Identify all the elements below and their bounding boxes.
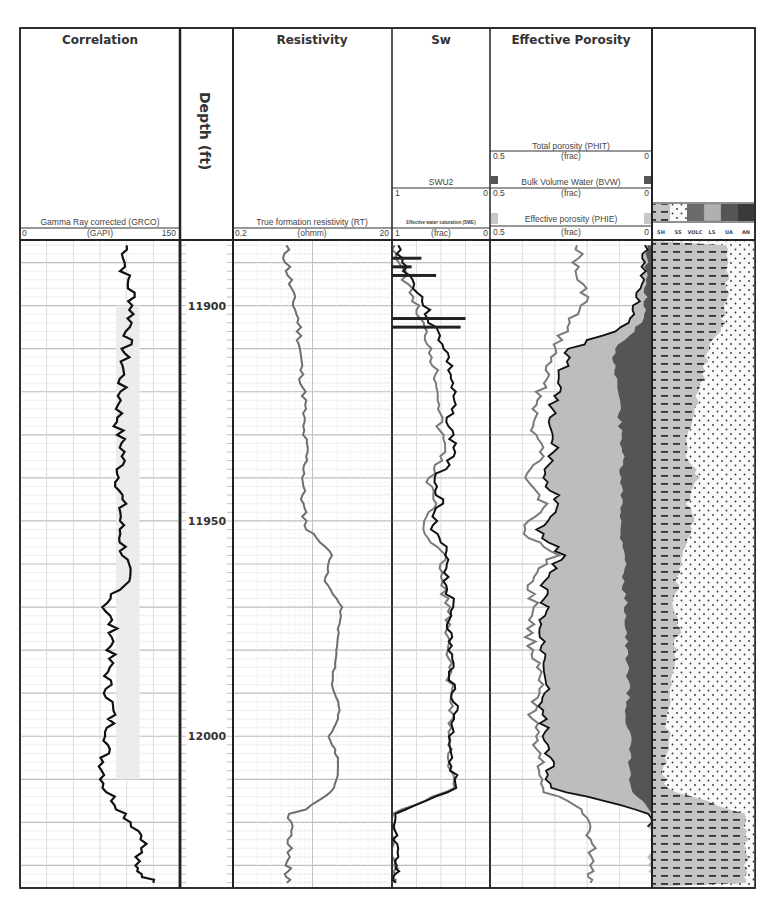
lithology-legend: SH SS VOLC LS UA AN (652, 203, 755, 235)
scale-unit: (frac) (561, 188, 581, 198)
curve-name: Effective porosity (PHIE) (525, 214, 618, 224)
scale-min: 0 (22, 228, 27, 238)
curve-header-swu2: SWU2 1 0 (392, 177, 490, 198)
curve-header-phie: Effective porosity (PHIE) 0.5 (frac) 0 (490, 213, 652, 237)
scale-max: 0 (644, 227, 649, 237)
bvw-swatch-right (644, 176, 651, 184)
scale-min: 1 (395, 228, 400, 238)
scale-min: 1 (395, 188, 400, 198)
phie-swatch-left (491, 213, 498, 224)
phie-swatch-right (644, 213, 651, 224)
legend-swatch-an (738, 204, 754, 221)
scale-unit: (frac) (561, 227, 581, 237)
scale-unit: (ohmm) (297, 228, 326, 238)
curve-name: True formation resistivity (RT) (256, 217, 368, 227)
scale-min: 0.5 (493, 227, 505, 237)
scale-min: 0.5 (493, 151, 505, 161)
curve-header-phit: Total porosity (PHIT) 0.5 (frac) 0 (490, 141, 652, 161)
scale-max: 0 (483, 228, 488, 238)
track-title-porosity: Effective Porosity (511, 33, 630, 47)
curve-header-bvw: Bulk Volume Water (BVW) 0.5 (frac) 0 (490, 176, 652, 198)
legend-label-sh: SH (657, 229, 665, 235)
curve-header-swe: Effective water saturation (SWE) 1 (frac… (392, 220, 490, 238)
depth-label: 11950 (188, 515, 227, 528)
track-title-correlation: Correlation (62, 33, 138, 47)
depth-label: 11900 (188, 300, 227, 313)
legend-label-volc: VOLC (688, 229, 703, 235)
well-log-chart: Correlation Depth (ft) Resistivity Sw Ef… (0, 0, 772, 912)
scale-max: 20 (380, 228, 390, 238)
lithology-track-plot (653, 241, 755, 887)
scale-max: 0 (644, 151, 649, 161)
curve-name: Effective water saturation (SWE) (406, 220, 476, 225)
legend-label-ua: UA (725, 229, 733, 235)
scale-unit: (GAPI) (87, 228, 113, 238)
curve-name: Gamma Ray corrected (GRCO) (40, 217, 159, 227)
curve-header-grco: Gamma Ray corrected (GRCO) 0 (GAPI) 150 (20, 217, 180, 238)
legend-swatch-volc (687, 204, 704, 221)
scale-unit: (frac) (561, 151, 581, 161)
scale-max: 0 (483, 188, 488, 198)
scale-max: 150 (162, 228, 176, 238)
legend-label-ss: SS (675, 229, 682, 235)
legend-label-ls: LS (709, 229, 716, 235)
legend-swatch-ss (670, 204, 687, 221)
curve-header-rt: True formation resistivity (RT) 0.2 (ohm… (233, 217, 392, 238)
track-title-sw: Sw (431, 33, 451, 47)
legend-label-an: AN (742, 229, 750, 235)
depth-label: 12000 (188, 730, 227, 743)
bvw-swatch-left (491, 176, 498, 184)
scale-unit: (frac) (431, 228, 451, 238)
scale-min: 0.2 (235, 228, 247, 238)
legend-swatch-sh (653, 204, 670, 221)
depth-track-plot: 119001195012000 (181, 245, 232, 882)
track-title-depth: Depth (ft) (197, 92, 213, 170)
curve-name: Total porosity (PHIT) (532, 141, 610, 151)
legend-swatch-ls (704, 204, 721, 221)
legend-swatch-ua (721, 204, 738, 221)
curve-name: SWU2 (429, 177, 454, 187)
track-title-resistivity: Resistivity (276, 33, 347, 47)
curve-name: Bulk Volume Water (BVW) (521, 177, 621, 187)
scale-min: 0.5 (493, 188, 505, 198)
scale-max: 0 (644, 188, 649, 198)
